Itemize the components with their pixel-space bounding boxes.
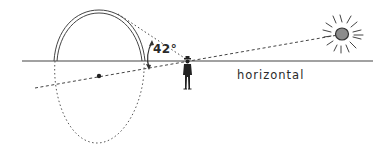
antisolar-point	[97, 74, 101, 78]
angle-label: 42°	[153, 42, 177, 56]
hidden-circle	[55, 61, 144, 143]
sun-icon	[323, 15, 363, 53]
horizon-label: horizontal	[237, 68, 304, 82]
rainbow-arc-outer	[54, 10, 145, 61]
rainbow-arc-inner	[57, 13, 142, 61]
angle-arc	[148, 42, 152, 68]
angle-arrowhead-bottom	[146, 64, 151, 70]
rainbow-diagram	[0, 0, 390, 153]
